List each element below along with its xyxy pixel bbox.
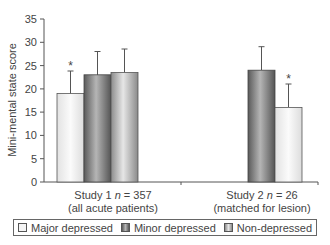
legend-item-non-depressed: Non-depressed	[224, 222, 312, 234]
y-tick-10: 10	[25, 129, 37, 141]
y-tick-15: 15	[25, 106, 37, 118]
legend-swatch-icon	[224, 223, 233, 232]
bar-non-depressed-study1	[111, 73, 138, 183]
group-study-2: *	[248, 47, 302, 182]
group-study-1: *	[57, 49, 138, 182]
legend-label: Major depressed	[31, 222, 113, 234]
significance-marker: *	[286, 72, 291, 86]
y-axis-label: Mini-mental state score	[6, 43, 18, 157]
bar-major-depressed-study1	[57, 93, 84, 182]
legend-item-major-depressed: Major depressed	[18, 222, 113, 234]
y-tick-35: 35	[25, 13, 37, 25]
bar-non-depressed-study2	[275, 107, 302, 182]
category-study-2-subtitle: (matched for lesion)	[213, 202, 310, 214]
legend: Major depressed Minor depressed Non-depr…	[13, 219, 317, 236]
category-study-1-subtitle: (all acute patients)	[68, 202, 158, 214]
y-tick-25: 25	[25, 60, 37, 72]
legend-item-minor-depressed: Minor depressed	[121, 222, 216, 234]
y-tick-20: 20	[25, 83, 37, 95]
legend-label: Non-depressed	[237, 222, 312, 234]
y-tick-30: 30	[25, 36, 37, 48]
y-tick-0: 0	[31, 176, 37, 188]
bar-minor-depressed-study2	[248, 70, 275, 182]
legend-swatch-icon	[121, 223, 130, 232]
bar-minor-depressed-study1	[84, 75, 111, 182]
significance-marker: *	[68, 59, 73, 73]
legend-label: Minor depressed	[134, 222, 216, 234]
bar-chart: Mini-mental state score 0 5 10 15 20 25 …	[0, 0, 330, 245]
y-tick-5: 5	[31, 153, 37, 165]
category-study-2: Study 2 n = 26	[226, 189, 297, 201]
category-study-1: Study 1 n = 357	[74, 189, 151, 201]
y-axis: 0 5 10 15 20 25 30 35	[25, 13, 44, 188]
legend-swatch-icon	[18, 223, 27, 232]
